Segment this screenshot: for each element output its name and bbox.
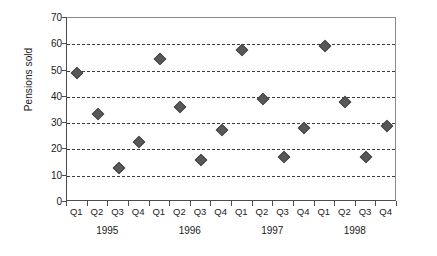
y-tick-mark bbox=[62, 17, 67, 18]
y-tick-label: 20 bbox=[22, 143, 62, 154]
data-point-marker bbox=[174, 101, 187, 114]
y-tick-label: 60 bbox=[22, 38, 62, 49]
x-tick-mark bbox=[396, 201, 397, 206]
data-point-marker bbox=[133, 135, 146, 148]
y-axis: 010203040506070 bbox=[0, 17, 62, 201]
y-tick-label: 50 bbox=[22, 64, 62, 75]
gridline bbox=[67, 123, 395, 124]
x-axis-group-label: 1996 bbox=[150, 225, 230, 236]
data-point-marker bbox=[360, 151, 373, 164]
y-tick-mark bbox=[62, 175, 67, 176]
data-point-marker bbox=[277, 151, 290, 164]
y-tick-mark bbox=[62, 43, 67, 44]
data-point-marker bbox=[112, 161, 125, 174]
y-tick-mark bbox=[62, 70, 67, 71]
data-point-marker bbox=[215, 123, 228, 136]
y-tick-label: 0 bbox=[22, 196, 62, 207]
data-point-marker bbox=[257, 93, 270, 106]
data-point-marker bbox=[92, 108, 105, 121]
plot-area bbox=[66, 17, 396, 201]
x-tick-label: Q4 bbox=[371, 206, 401, 217]
scatter-chart: Pensions sold 010203040506070 Q1Q2Q3Q4Q1… bbox=[0, 0, 437, 256]
data-point-marker bbox=[380, 120, 393, 133]
y-tick-mark bbox=[62, 96, 67, 97]
y-tick-label: 30 bbox=[22, 117, 62, 128]
gridline bbox=[67, 71, 395, 72]
y-tick-label: 40 bbox=[22, 90, 62, 101]
y-tick-mark bbox=[62, 201, 67, 202]
data-point-marker bbox=[71, 67, 84, 80]
gridline bbox=[67, 176, 395, 177]
y-tick-label: 70 bbox=[22, 12, 62, 23]
x-axis-group-label: 1995 bbox=[67, 225, 147, 236]
y-tick-mark bbox=[62, 122, 67, 123]
data-point-marker bbox=[318, 39, 331, 52]
data-point-marker bbox=[153, 52, 166, 65]
x-axis-group-label: 1997 bbox=[232, 225, 312, 236]
data-point-marker bbox=[195, 154, 208, 167]
gridline bbox=[67, 149, 395, 150]
gridline bbox=[67, 44, 395, 45]
y-tick-label: 10 bbox=[22, 169, 62, 180]
y-tick-mark bbox=[62, 148, 67, 149]
x-axis-group-label: 1998 bbox=[315, 225, 395, 236]
